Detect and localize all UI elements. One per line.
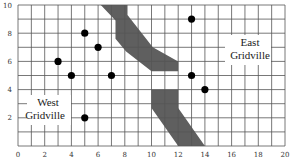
region-label-west: West Gridville [25, 95, 71, 125]
y-tick-label: 8 [8, 30, 12, 38]
data-point [108, 72, 115, 79]
east-label-line1: East [241, 36, 260, 48]
west-label-line2: Gridville [25, 109, 65, 121]
data-point [81, 30, 88, 37]
y-tick-label: 4 [8, 86, 13, 94]
axis-ticks: 02468101214161820246810 [3, 2, 289, 160]
y-tick-label: 2 [8, 114, 12, 122]
x-tick-label: 16 [227, 151, 236, 159]
data-point [54, 58, 61, 65]
x-tick-label: 2 [42, 151, 46, 159]
data-point [201, 86, 208, 93]
data-point [68, 72, 75, 79]
x-tick-label: 4 [69, 151, 74, 159]
x-tick-label: 14 [200, 151, 209, 159]
x-tick-label: 0 [16, 151, 20, 159]
x-tick-label: 10 [147, 151, 156, 159]
y-tick-label: 6 [8, 58, 13, 66]
x-tick-label: 12 [174, 151, 183, 159]
y-tick-label: 10 [3, 2, 12, 10]
region-label-east: East Gridville [225, 35, 271, 65]
x-tick-label: 20 [281, 151, 290, 159]
data-point [95, 44, 102, 51]
east-label-line2: Gridville [230, 49, 270, 61]
west-label-line1: West [37, 96, 59, 108]
x-tick-label: 8 [123, 151, 127, 159]
gridville-map: 02468101214161820246810 West Gridville E… [0, 0, 302, 163]
data-point [188, 72, 195, 79]
data-point [188, 16, 195, 23]
data-point [81, 114, 88, 121]
x-tick-label: 18 [254, 151, 263, 159]
x-tick-label: 6 [96, 151, 101, 159]
